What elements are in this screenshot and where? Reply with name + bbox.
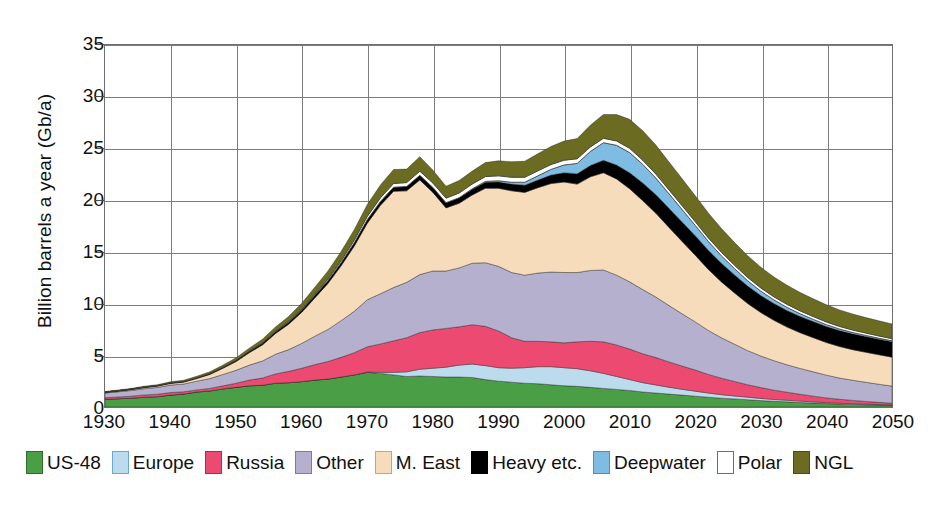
legend-item-ngl[interactable]: NGL — [793, 451, 853, 474]
legend-label: Polar — [738, 453, 782, 472]
x-tick-label: 2040 — [806, 412, 848, 431]
chart-legend: US-48EuropeRussiaOtherM. EastHeavy etc.D… — [26, 447, 926, 477]
y-tick-mark — [95, 304, 104, 305]
legend-item-europe[interactable]: Europe — [112, 451, 194, 474]
legend-label: US-48 — [47, 453, 101, 472]
x-tick-label: 2050 — [872, 412, 914, 431]
x-tick-label: 1990 — [477, 412, 519, 431]
legend-swatch-icon — [26, 451, 43, 474]
y-axis-title: Billion barrels a year (Gb/a) — [34, 16, 56, 406]
x-tick-label: 2010 — [609, 412, 651, 431]
legend-label: Heavy etc. — [492, 453, 582, 472]
legend-swatch-icon — [112, 451, 129, 474]
stacked-area-chart: Billion barrels a year (Gb/a) 0510152025… — [0, 0, 943, 511]
y-tick-mark — [95, 252, 104, 253]
legend-swatch-icon — [295, 451, 312, 474]
y-tick-mark — [95, 44, 104, 45]
legend-item-us-48[interactable]: US-48 — [26, 451, 101, 474]
legend-item-russia[interactable]: Russia — [205, 451, 284, 474]
y-tick-mark — [95, 96, 104, 97]
x-tick-label: 1930 — [83, 412, 125, 431]
x-tick-label: 1980 — [412, 412, 454, 431]
x-tick-label: 2030 — [740, 412, 782, 431]
legend-label: Russia — [226, 453, 284, 472]
area-series-layer — [105, 45, 892, 407]
y-tick-mark — [95, 356, 104, 357]
x-tick-label: 1940 — [149, 412, 191, 431]
legend-swatch-icon — [205, 451, 222, 474]
x-tick-label: 2020 — [675, 412, 717, 431]
x-tick-label: 1950 — [214, 412, 256, 431]
legend-swatch-icon — [471, 451, 488, 474]
legend-label: Europe — [133, 453, 194, 472]
legend-item-heavy-etc[interactable]: Heavy etc. — [471, 451, 582, 474]
legend-label: NGL — [814, 453, 853, 472]
legend-swatch-icon — [593, 451, 610, 474]
y-tick-mark — [95, 200, 104, 201]
legend-item-polar[interactable]: Polar — [717, 451, 782, 474]
x-tick-label: 2000 — [543, 412, 585, 431]
legend-item-m-east[interactable]: M. East — [375, 451, 460, 474]
legend-swatch-icon — [793, 451, 810, 474]
x-tick-label: 1960 — [280, 412, 322, 431]
x-axis-ticks: 1930194019501960197019801990200020102020… — [0, 412, 943, 440]
x-tick-label: 1970 — [346, 412, 388, 431]
legend-label: Deepwater — [614, 453, 706, 472]
legend-swatch-icon — [717, 451, 734, 474]
legend-item-deepwater[interactable]: Deepwater — [593, 451, 706, 474]
y-tick-mark — [95, 148, 104, 149]
plot-area — [104, 44, 893, 408]
legend-swatch-icon — [375, 451, 392, 474]
legend-item-other[interactable]: Other — [295, 451, 364, 474]
legend-label: M. East — [396, 453, 460, 472]
legend-label: Other — [316, 453, 364, 472]
